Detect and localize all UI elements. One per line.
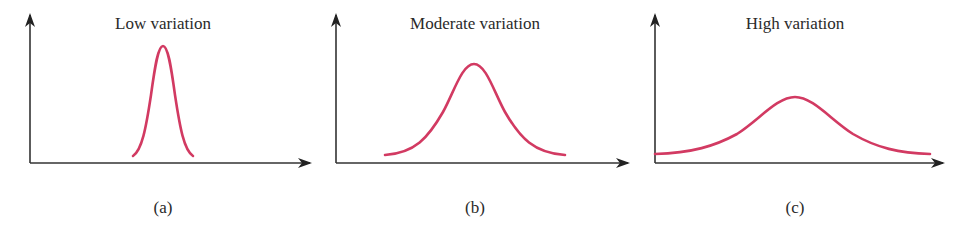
chart-low-variation xyxy=(0,0,320,230)
bell-curve xyxy=(385,64,565,155)
bell-curve xyxy=(133,46,193,156)
chart-moderate-variation xyxy=(320,0,640,230)
panel-moderate-variation: Moderate variation (b) xyxy=(320,0,640,230)
panel-title: High variation xyxy=(746,14,845,34)
chart-high-variation xyxy=(637,0,957,230)
panel-caption: (b) xyxy=(465,198,485,218)
panel-caption: (a) xyxy=(154,198,173,218)
panel-title: Low variation xyxy=(115,14,211,34)
bell-curve xyxy=(655,97,930,154)
panel-caption: (c) xyxy=(786,198,805,218)
panel-high-variation: High variation (c) xyxy=(637,0,957,230)
panel-title: Moderate variation xyxy=(410,14,540,34)
panel-low-variation: Low variation (a) xyxy=(0,0,320,230)
